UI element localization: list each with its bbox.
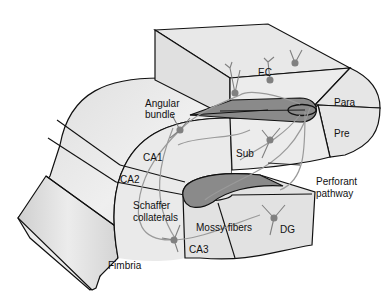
label-ca3: CA3 [189,244,208,255]
label-ec: EC [258,67,272,78]
label-para: Para [334,97,355,108]
label-mossy-fibers: Mossy fibers [196,222,252,233]
hippocampus-diagram [0,0,390,304]
label-schaffer-1: Schaffer [133,200,170,211]
label-perforant-2: pathway [316,188,353,199]
label-dg: DG [280,224,295,235]
label-perforant-1: Perforant [316,176,357,187]
label-sub: Sub [236,148,254,159]
label-schaffer-2: collaterals [133,212,178,223]
label-fimbria: Fimbria [108,260,141,271]
label-pre: Pre [334,128,350,139]
label-ca1: CA1 [143,152,162,163]
label-ca2: CA2 [120,174,139,185]
label-angular-bundle-2: bundle [145,109,175,120]
label-angular-bundle-1: Angular [145,98,179,109]
